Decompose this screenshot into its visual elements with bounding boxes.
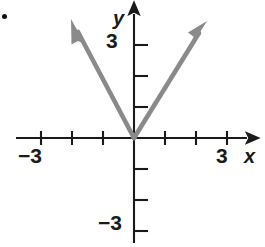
x-axis-tick-label-negative-3: −3 bbox=[18, 145, 42, 166]
absolute-value-curve bbox=[71, 19, 207, 138]
x-axis-tick-label-3: 3 bbox=[216, 145, 228, 166]
y-axis-name-label: y bbox=[113, 8, 124, 28]
graph-figure: 3 −3 3 −3 y x bbox=[0, 0, 265, 247]
x-axis-name-label: x bbox=[244, 146, 255, 166]
coordinate-plane-plot bbox=[0, 0, 265, 247]
y-axis-tick-label-3: 3 bbox=[106, 30, 118, 51]
y-axis-tick-label-negative-3: −3 bbox=[98, 212, 122, 233]
